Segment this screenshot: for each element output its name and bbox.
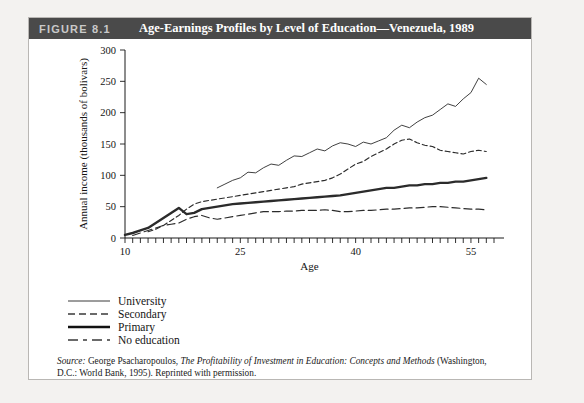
svg-text:40: 40 <box>350 246 361 257</box>
svg-text:0: 0 <box>111 233 116 244</box>
svg-text:50: 50 <box>106 201 117 212</box>
svg-text:300: 300 <box>100 45 116 56</box>
legend-label-no-education: No education <box>118 334 180 346</box>
svg-text:Annual income (thousands of bo: Annual income (thousands of bolivars) <box>77 58 90 230</box>
svg-text:25: 25 <box>235 246 246 257</box>
svg-text:100: 100 <box>100 170 116 181</box>
svg-text:250: 250 <box>100 76 116 87</box>
legend-swatch-no-education <box>67 335 111 345</box>
legend-label-university: University <box>118 295 167 307</box>
figure-container: FIGURE 8.1 Age-Earnings Profiles by Leve… <box>28 17 532 380</box>
legend-item-secondary: Secondary <box>67 307 297 320</box>
legend-swatch-primary <box>67 322 111 332</box>
svg-text:Age: Age <box>300 260 318 272</box>
source-divider <box>57 349 505 350</box>
chart-plot-area: 05010015020025030010254055AgeAnnual inco… <box>29 39 531 291</box>
svg-text:200: 200 <box>100 107 116 118</box>
legend-swatch-university <box>67 296 111 306</box>
source-text-before: George Psacharopoulos, <box>86 356 181 366</box>
svg-text:10: 10 <box>120 246 131 257</box>
source-publication-title: The Profitability of Investment in Educa… <box>180 356 434 366</box>
legend-item-no-education: No education <box>67 333 297 346</box>
age-earnings-line-chart: 05010015020025030010254055AgeAnnual inco… <box>29 39 531 291</box>
source-label: Source: <box>57 356 86 366</box>
source-note: Source: George Psacharopoulos, The Profi… <box>57 356 505 379</box>
legend-label-primary: Primary <box>118 321 155 333</box>
legend-label-secondary: Secondary <box>118 308 167 320</box>
svg-text:150: 150 <box>100 139 116 150</box>
legend-item-university: University <box>67 294 297 307</box>
chart-legend: University Secondary Primary No educatio… <box>67 294 297 346</box>
page-background: FIGURE 8.1 Age-Earnings Profiles by Leve… <box>0 0 584 403</box>
figure-header-bar: FIGURE 8.1 Age-Earnings Profiles by Leve… <box>29 18 531 39</box>
legend-item-primary: Primary <box>67 320 297 333</box>
figure-title: Age-Earnings Profiles by Level of Educat… <box>139 21 474 36</box>
legend-swatch-secondary <box>67 309 111 319</box>
figure-number: FIGURE 8.1 <box>39 23 111 35</box>
svg-text:55: 55 <box>466 246 477 257</box>
